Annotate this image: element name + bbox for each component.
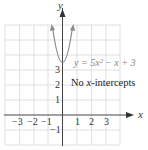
equation-label: y = 5x² − x + 3 bbox=[74, 57, 136, 68]
x-tick-neg3: −3 bbox=[12, 117, 23, 127]
chart-graphic bbox=[0, 0, 148, 150]
y-tick-1: 1 bbox=[55, 95, 60, 105]
y-tick-neg1: −1 bbox=[50, 125, 61, 135]
x-tick-2: 2 bbox=[89, 117, 94, 127]
x-axis-label: x bbox=[138, 109, 143, 119]
no-intercepts-note: No x-intercepts bbox=[71, 77, 135, 88]
x-axis-arrow-icon bbox=[126, 112, 134, 118]
note-suffix: -intercepts bbox=[91, 77, 135, 88]
note-prefix: No bbox=[71, 77, 86, 88]
y-axis-label: y bbox=[58, 0, 63, 10]
x-tick-3: 3 bbox=[104, 117, 109, 127]
x-tick-neg2: −2 bbox=[27, 117, 38, 127]
y-tick-2: 2 bbox=[55, 80, 60, 90]
y-tick-3: 3 bbox=[55, 65, 60, 75]
x-tick-1: 1 bbox=[75, 117, 80, 127]
